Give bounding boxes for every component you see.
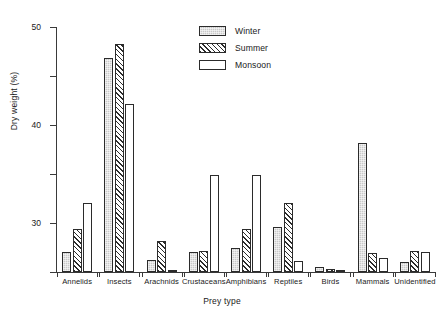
bar-group xyxy=(62,27,92,272)
legend-swatch-winter xyxy=(199,26,226,36)
bar-winter-birds xyxy=(315,267,324,272)
x-tick-label: Crustaceans xyxy=(182,277,226,286)
bar-monsoon-mammals xyxy=(379,258,388,272)
bar-monsoon-crustaceans xyxy=(210,175,219,272)
y-tick-label: 50 xyxy=(32,23,41,32)
bar-group xyxy=(273,27,303,272)
bar-summer-insects xyxy=(115,44,124,272)
x-tick xyxy=(310,272,311,277)
legend-swatch-monsoon xyxy=(199,60,226,70)
bar-monsoon-birds xyxy=(336,270,345,272)
y-tick: 10 xyxy=(50,223,56,224)
x-tick-label: Mammals xyxy=(356,277,390,286)
y-tick-label: 40 xyxy=(32,121,41,130)
bar-summer-crustaceans xyxy=(199,251,208,272)
legend-label: Monsoon xyxy=(235,60,271,70)
bar-winter-reptiles xyxy=(273,227,282,272)
bar-summer-annelids xyxy=(73,229,82,272)
y-axis-line xyxy=(56,27,57,272)
bar-winter-insects xyxy=(104,58,113,272)
legend-item-winter: Winter xyxy=(199,24,271,38)
bar-monsoon-annelids xyxy=(83,203,92,272)
y-tick: 50 xyxy=(50,27,56,28)
x-tick-label: Birds xyxy=(322,277,340,286)
bar-winter-crustaceans xyxy=(189,252,198,272)
bar-summer-birds xyxy=(326,269,335,272)
bar-winter-annelids xyxy=(62,252,71,272)
x-tick xyxy=(142,272,143,277)
x-tick xyxy=(97,272,98,277)
x-tick xyxy=(353,272,354,277)
x-tick-label: Insects xyxy=(107,277,132,286)
bar-summer-reptiles xyxy=(284,203,293,272)
bar-monsoon-reptiles xyxy=(294,261,303,272)
y-tick: 40 xyxy=(50,76,56,77)
chart-legend: WinterSummerMonsoon xyxy=(199,24,271,75)
bar-monsoon-unidentified xyxy=(421,252,430,272)
legend-item-monsoon: Monsoon xyxy=(199,58,271,72)
legend-item-summer: Summer xyxy=(199,41,271,55)
bar-winter-mammals xyxy=(358,143,367,272)
legend-label: Winter xyxy=(235,26,260,36)
bar-winter-unidentified xyxy=(400,262,409,272)
bar-monsoon-amphibians xyxy=(252,175,261,272)
bar-group xyxy=(147,27,177,272)
bar-summer-unidentified xyxy=(410,251,419,272)
x-axis-title: Prey type xyxy=(0,296,444,306)
bar-winter-arachnids xyxy=(147,260,156,272)
bar-group xyxy=(358,27,388,272)
y-tick-label: 30 xyxy=(32,219,41,228)
bar-summer-arachnids xyxy=(157,241,166,272)
bar-group xyxy=(315,27,345,272)
y-axis-title: Dry weight (%) xyxy=(9,41,19,161)
bar-summer-amphibians xyxy=(242,229,251,272)
x-tick-label: Amphibians xyxy=(226,277,267,286)
legend-label: Summer xyxy=(235,43,268,53)
bar-winter-amphibians xyxy=(231,248,240,272)
x-tick xyxy=(139,272,140,277)
y-tick: 20 xyxy=(50,174,56,175)
bar-monsoon-arachnids xyxy=(168,270,177,272)
y-tick: 0 xyxy=(50,272,56,273)
x-tick-label: Reptiles xyxy=(274,277,302,286)
bar-monsoon-insects xyxy=(125,104,134,272)
bar-group xyxy=(400,27,430,272)
x-tick xyxy=(99,272,100,277)
x-tick xyxy=(57,272,58,277)
x-tick-label: Arachnids xyxy=(144,277,179,286)
bar-summer-mammals xyxy=(368,253,377,272)
bar-group xyxy=(104,27,134,272)
bar-chart: Dry weight (%) 01020304050 AnnelidsInsec… xyxy=(0,0,444,318)
x-tick xyxy=(350,272,351,277)
x-axis-line xyxy=(56,272,436,273)
x-tick xyxy=(268,272,269,277)
x-tick xyxy=(308,272,309,277)
x-tick-label: Annelids xyxy=(62,277,92,286)
legend-swatch-summer xyxy=(199,43,226,53)
x-tick-label: Unidentified xyxy=(394,277,435,286)
y-tick: 30 xyxy=(50,125,56,126)
